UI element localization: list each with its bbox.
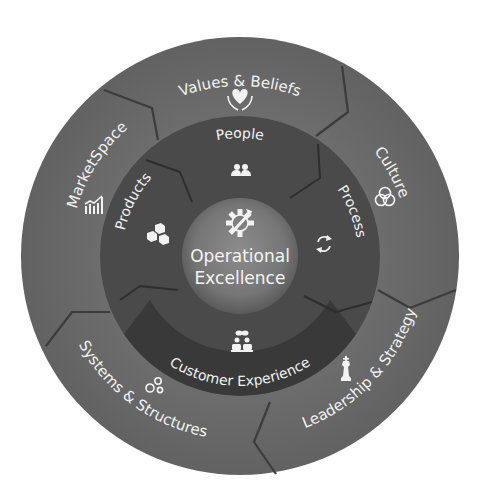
operational-excellence-diagram: Operational Excellence Values & Beliefs … <box>0 0 484 502</box>
inner-label-people: People <box>215 125 265 143</box>
center-title-line2: Excellence <box>195 268 286 288</box>
center-title-line1: Operational <box>190 246 290 266</box>
